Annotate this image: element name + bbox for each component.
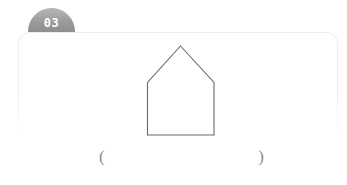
close-parenthesis: ) <box>258 146 264 168</box>
question-number-badge: 03 <box>28 8 75 32</box>
pentagon-house-icon <box>145 42 217 140</box>
pentagon-figure <box>145 42 217 140</box>
question-number-label: 03 <box>28 16 75 30</box>
answer-parentheses-row: ( ) <box>99 146 264 170</box>
worksheet-page: 03 ( ) <box>0 0 347 185</box>
open-parenthesis: ( <box>99 146 105 168</box>
answer-input-blank[interactable] <box>113 146 250 168</box>
pentagon-outline-path <box>148 46 215 135</box>
